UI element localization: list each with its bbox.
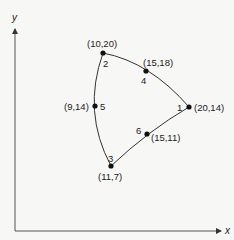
coord-label-6: (15,11) (151, 132, 180, 143)
node-5 (92, 103, 97, 108)
node-number-3: 3 (108, 153, 113, 164)
axes: y x (11, 12, 231, 236)
node-2 (100, 50, 105, 55)
coord-label-3: (11,7) (98, 171, 122, 182)
diagram-canvas: y x 1 2 3 4 5 6 (20,14) (0, 0, 234, 240)
x-axis-label: x (224, 225, 231, 236)
coord-label-1: (20,14) (194, 102, 224, 113)
node-numbers: 1 2 3 4 5 6 (100, 58, 182, 164)
element-boundary (94, 53, 189, 166)
node-number-1: 1 (177, 102, 182, 113)
node-number-5: 5 (100, 101, 105, 112)
coord-label-2: (10,20) (87, 38, 117, 49)
node-number-4: 4 (141, 75, 146, 86)
y-axis-label: y (11, 12, 18, 23)
node-6 (144, 131, 149, 136)
coord-label-4: (15,18) (143, 57, 173, 68)
node-3 (108, 163, 113, 168)
coord-label-5: (9,14) (64, 101, 89, 112)
node-1 (186, 104, 191, 109)
node-number-6: 6 (136, 125, 141, 136)
coordinate-labels: (20,14) (10,20) (11,7) (15,18) (9,14) (1… (64, 38, 224, 182)
node-4 (143, 68, 148, 73)
node-number-2: 2 (103, 58, 108, 69)
